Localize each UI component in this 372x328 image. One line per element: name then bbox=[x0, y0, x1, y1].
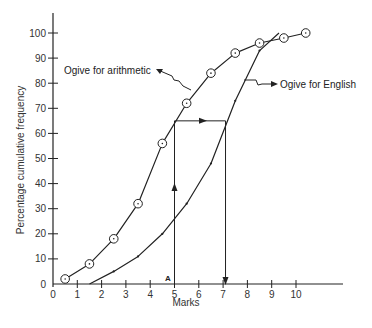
data-point-dot bbox=[258, 49, 260, 51]
arrow-up-icon bbox=[172, 183, 178, 191]
y-tick-label: 40 bbox=[35, 178, 47, 189]
leader-english bbox=[244, 80, 272, 85]
x-tick-label: 8 bbox=[245, 289, 251, 300]
data-point-center bbox=[259, 42, 261, 44]
y-tick-label: 70 bbox=[35, 103, 47, 114]
label-ogive-arithmetic: Ogive for arithmetic bbox=[64, 65, 151, 76]
y-tick-label: 20 bbox=[35, 228, 47, 239]
x-tick-label: 10 bbox=[290, 289, 302, 300]
data-point-center bbox=[186, 102, 188, 104]
axes: 0123456789100102030405060708090100 bbox=[29, 13, 343, 300]
data-point-center bbox=[283, 37, 285, 39]
y-tick-label: 60 bbox=[35, 128, 47, 139]
data-point-center bbox=[210, 72, 212, 74]
label-ogive-english: Ogive for English bbox=[280, 79, 356, 90]
data-point-center bbox=[113, 238, 115, 240]
x-tick-label: 4 bbox=[147, 289, 153, 300]
data-point-center bbox=[162, 143, 164, 145]
y-axis-title: Percentage cumulative frequency bbox=[15, 86, 26, 234]
x-tick-label: 2 bbox=[99, 289, 105, 300]
point-a-label: A bbox=[165, 274, 171, 283]
data-point-center bbox=[305, 32, 307, 34]
data-point-center bbox=[137, 203, 139, 205]
x-axis-title: Marks bbox=[172, 297, 199, 308]
y-tick-label: 50 bbox=[35, 153, 47, 164]
data-point-dot bbox=[161, 233, 163, 235]
y-tick-label: 100 bbox=[29, 28, 46, 39]
x-tick-label: 1 bbox=[75, 289, 81, 300]
arrow-right-icon bbox=[199, 118, 207, 124]
data-point-dot bbox=[137, 255, 139, 257]
data-point-center bbox=[89, 263, 91, 265]
x-tick-label: 7 bbox=[220, 289, 226, 300]
y-tick-label: 90 bbox=[35, 53, 47, 64]
arrowhead-english bbox=[271, 81, 278, 87]
data-point-center bbox=[64, 278, 66, 280]
x-tick-label: 0 bbox=[50, 289, 56, 300]
x-tick-label: 9 bbox=[269, 289, 275, 300]
x-tick-label: 3 bbox=[123, 289, 129, 300]
leader-arithmetic bbox=[158, 70, 191, 90]
data-point-dot bbox=[210, 162, 212, 164]
ogive-chart: 0123456789100102030405060708090100 Ogive… bbox=[0, 0, 372, 328]
data-point-dot bbox=[186, 203, 188, 205]
y-tick-label: 80 bbox=[35, 78, 47, 89]
y-tick-label: 0 bbox=[40, 279, 46, 290]
annotation-layer: Ogive for arithmetic Ogive for English A bbox=[64, 65, 356, 283]
y-tick-label: 10 bbox=[35, 253, 47, 264]
data-point-center bbox=[234, 52, 236, 54]
data-point-dot bbox=[113, 270, 115, 272]
y-tick-label: 30 bbox=[35, 203, 47, 214]
data-point-dot bbox=[234, 100, 236, 102]
